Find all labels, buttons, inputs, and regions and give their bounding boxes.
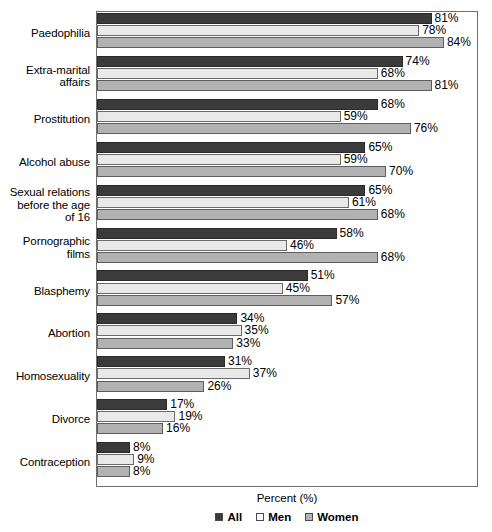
bar-women xyxy=(97,123,411,134)
bar-women xyxy=(97,209,378,220)
bar-value-label: 76% xyxy=(414,121,438,135)
bar-value-label: 31% xyxy=(228,354,252,368)
bar-chart: Paedophilia81%78%84%Extra-maritalaffairs… xyxy=(0,0,492,532)
bar-group: Sexual relationsbefore the ageof 1665%61… xyxy=(0,185,492,228)
bar-men xyxy=(97,68,378,79)
bar-group-bars: 17%19%16% xyxy=(97,399,492,442)
category-label-line: Prostitution xyxy=(0,113,90,126)
category-label: Contraception xyxy=(0,456,90,469)
category-label-line: of 16 xyxy=(0,211,90,224)
bar-men xyxy=(97,325,242,336)
bar-all xyxy=(97,356,225,367)
legend-swatch-men-icon xyxy=(256,513,264,521)
category-label: Alcohol abuse xyxy=(0,156,90,169)
bar-value-label: 74% xyxy=(406,54,430,68)
category-label: Paedophilia xyxy=(0,27,90,40)
legend-item-all[interactable]: All xyxy=(215,510,242,523)
bar-value-label: 59% xyxy=(344,152,368,166)
category-label-line: before the age xyxy=(0,199,90,212)
bar-women xyxy=(97,295,332,306)
bar-group-bars: 74%68%81% xyxy=(97,56,492,99)
bar-value-label: 61% xyxy=(352,195,376,209)
category-label-line: Homosexuality xyxy=(0,370,90,383)
legend-label: Women xyxy=(317,511,358,523)
legend-swatch-all-icon xyxy=(215,513,223,521)
bar-value-label: 46% xyxy=(290,238,314,252)
bar-group: Alcohol abuse65%59%70% xyxy=(0,142,492,185)
bar-group: Pornographicfilms58%46%68% xyxy=(0,228,492,271)
bar-women xyxy=(97,80,432,91)
bar-men xyxy=(97,454,134,465)
category-label-line: Blasphemy xyxy=(0,285,90,298)
legend-swatch-women-icon xyxy=(305,513,313,521)
x-axis-title: Percent (%) xyxy=(96,492,478,504)
bar-group-bars: 51%45%57% xyxy=(97,270,492,313)
bar-women xyxy=(97,252,378,263)
category-label-line: Divorce xyxy=(0,413,90,426)
bar-women xyxy=(97,466,130,477)
bar-group-bars: 8%9%8% xyxy=(97,442,492,485)
category-label: Sexual relationsbefore the ageof 16 xyxy=(0,186,90,224)
bar-all xyxy=(97,313,237,324)
bar-men xyxy=(97,154,341,165)
bar-all xyxy=(97,142,365,153)
category-label: Pornographicfilms xyxy=(0,235,90,260)
bar-all xyxy=(97,56,403,67)
category-label: Abortion xyxy=(0,327,90,340)
bar-value-label: 33% xyxy=(236,336,260,350)
bar-group-bars: 65%61%68% xyxy=(97,185,492,228)
category-label-line: Abortion xyxy=(0,327,90,340)
bar-men xyxy=(97,240,287,251)
bar-men xyxy=(97,25,419,36)
bar-group-bars: 58%46%68% xyxy=(97,228,492,271)
bar-group: Homosexuality31%37%26% xyxy=(0,356,492,399)
bar-value-label: 57% xyxy=(335,293,359,307)
legend-item-women[interactable]: Women xyxy=(305,510,358,523)
bar-group-bars: 34%35%33% xyxy=(97,313,492,356)
category-label: Homosexuality xyxy=(0,370,90,383)
category-label-line: Pornographic xyxy=(0,235,90,248)
bar-all xyxy=(97,13,432,24)
bar-group: Prostitution68%59%76% xyxy=(0,99,492,142)
category-label-line: Alcohol abuse xyxy=(0,156,90,169)
bar-women xyxy=(97,166,386,177)
category-label-line: films xyxy=(0,248,90,261)
bar-women xyxy=(97,37,444,48)
bar-men xyxy=(97,111,341,122)
bar-group: Contraception8%9%8% xyxy=(0,442,492,485)
bar-all xyxy=(97,442,130,453)
bar-women xyxy=(97,338,233,349)
bar-value-label: 26% xyxy=(207,379,231,393)
bar-group-bars: 68%59%76% xyxy=(97,99,492,142)
bar-value-label: 84% xyxy=(447,35,471,49)
bar-value-label: 78% xyxy=(422,23,446,37)
bar-group: Paedophilia81%78%84% xyxy=(0,13,492,56)
category-label-line: Contraception xyxy=(0,456,90,469)
category-label-line: Sexual relations xyxy=(0,186,90,199)
bar-value-label: 68% xyxy=(381,66,405,80)
bar-value-label: 8% xyxy=(133,464,150,478)
category-label-line: Paedophilia xyxy=(0,27,90,40)
legend-label: All xyxy=(227,511,242,523)
bar-value-label: 37% xyxy=(253,366,277,380)
legend-item-men[interactable]: Men xyxy=(256,510,291,523)
bar-group: Divorce17%19%16% xyxy=(0,399,492,442)
bar-value-label: 45% xyxy=(286,281,310,295)
bar-group: Abortion34%35%33% xyxy=(0,313,492,356)
bar-group-bars: 65%59%70% xyxy=(97,142,492,185)
bar-value-label: 70% xyxy=(389,164,413,178)
bar-all xyxy=(97,399,167,410)
category-label: Prostitution xyxy=(0,113,90,126)
category-label: Divorce xyxy=(0,413,90,426)
bar-all xyxy=(97,185,365,196)
bar-women xyxy=(97,381,204,392)
category-label-line: affairs xyxy=(0,76,90,89)
bar-all xyxy=(97,270,308,281)
bar-value-label: 16% xyxy=(166,421,190,435)
bar-all xyxy=(97,99,378,110)
bar-group: Blasphemy51%45%57% xyxy=(0,270,492,313)
bar-value-label: 68% xyxy=(381,207,405,221)
bar-value-label: 68% xyxy=(381,250,405,264)
category-label: Blasphemy xyxy=(0,285,90,298)
chart-legend: AllMenWomen xyxy=(96,510,478,523)
